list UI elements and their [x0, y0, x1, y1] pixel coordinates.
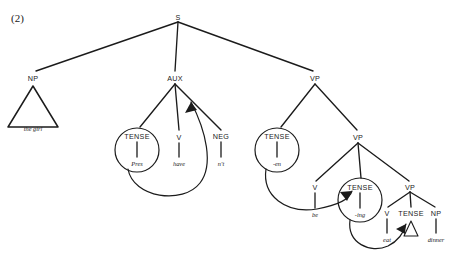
- terminal-dinner: dinner: [428, 236, 445, 243]
- node-vp2: VP: [353, 133, 363, 142]
- node-vp1: VP: [310, 74, 320, 83]
- branch-s-aux: [175, 22, 178, 71]
- tense-triangle-icon: [404, 221, 418, 236]
- node-tense3: TENSE: [347, 183, 372, 192]
- terminal-en: -en: [273, 160, 281, 167]
- branch-vp2-v: [316, 143, 358, 181]
- node-v2: V: [312, 183, 317, 192]
- branch-aux-neg: [175, 84, 221, 130]
- tree-stems: [137, 142, 436, 233]
- terminal-have: have: [173, 160, 185, 167]
- syntax-tree-figure: S NP AUX VP TENSE V NEG TENSE VP V TENSE…: [0, 0, 455, 262]
- branch-s-vp: [178, 22, 313, 71]
- node-np2: NP: [431, 209, 442, 218]
- branch-vp3-tense: [410, 192, 411, 207]
- terminal-the-girl: the girl: [24, 125, 43, 132]
- example-number: (2): [11, 12, 24, 25]
- arc-pres-to-have: [128, 102, 207, 196]
- terminal-eat: eat: [383, 236, 391, 243]
- terminal-pres: Pres: [130, 160, 143, 167]
- node-aux: AUX: [167, 74, 183, 83]
- terminal-nt: n't: [218, 160, 225, 167]
- movement-arrows: [128, 102, 406, 249]
- node-s: S: [175, 13, 180, 22]
- terminal-labels: the girl Pres have n't -en be -ing eat d…: [24, 125, 445, 243]
- branch-vp2-vp3: [358, 143, 409, 181]
- branch-vp3-v: [388, 192, 410, 207]
- arc-ing-to-eat: [350, 220, 406, 249]
- branch-aux-v: [175, 84, 179, 130]
- node-tense1: TENSE: [124, 132, 149, 141]
- arrowhead-ing-to-eat: [396, 224, 406, 234]
- np-triangle-icon: [8, 86, 58, 127]
- terminal-be: be: [312, 211, 318, 218]
- arc-en-to-be: [266, 169, 352, 210]
- node-np: NP: [28, 74, 39, 83]
- node-tense2: TENSE: [264, 132, 289, 141]
- branch-vp1-vp2: [315, 84, 357, 130]
- terminal-ing: -ing: [355, 211, 366, 218]
- node-vp3: VP: [405, 183, 415, 192]
- arrowhead-en-to-be: [340, 191, 352, 201]
- node-tense4: TENSE: [398, 209, 423, 218]
- node-v1: V: [176, 133, 181, 142]
- node-neg: NEG: [213, 132, 230, 141]
- branch-aux-tense: [140, 84, 175, 127]
- tree-branches: [36, 22, 435, 207]
- tree-canvas: S NP AUX VP TENSE V NEG TENSE VP V TENSE…: [0, 0, 455, 262]
- branch-vp3-np: [410, 192, 435, 207]
- node-labels: S NP AUX VP TENSE V NEG TENSE VP V TENSE…: [28, 13, 442, 218]
- branch-s-np: [36, 22, 178, 71]
- node-v3: V: [384, 209, 389, 218]
- branch-vp2-tense: [358, 143, 361, 178]
- branch-vp1-tense: [281, 84, 315, 127]
